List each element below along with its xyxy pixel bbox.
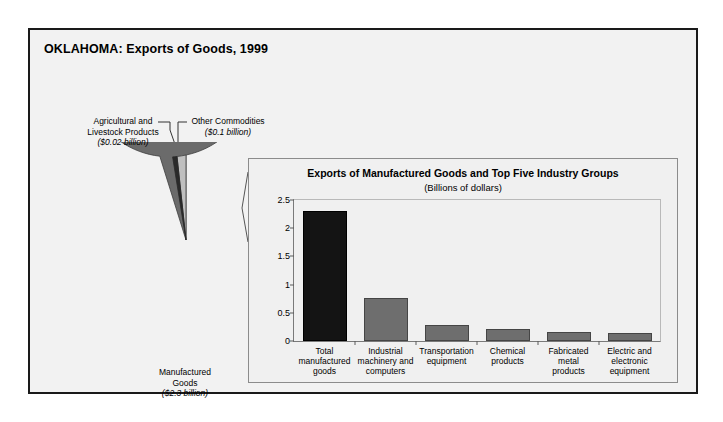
bar-series: TotalmanufacturedgoodsIndustrialmachiner… [294,200,660,341]
pie-label-manu-value: ($2.3 billion) [162,388,208,398]
bar-4 [486,329,530,341]
pie-label-agri-line2: Livestock Products [87,127,158,137]
bar-group: Electric andelectronicequipment [599,200,660,341]
x-axis-tick-mark [538,341,539,345]
bar-group: Fabricatedmetalproducts [538,200,599,341]
y-axis-tick-label: 0.5 [277,308,290,318]
pie-label-other-line1: Other Commodities [191,116,264,126]
inset-bar-panel: Exports of Manufactured Goods and Top Fi… [248,158,678,383]
pie-label-other-commodities: Other Commodities ($0.1 billion) [176,116,280,137]
pie-label-agri-line1: Agricultural and [93,116,152,126]
x-axis-tick-mark [416,341,417,345]
bar-6 [608,333,652,341]
bar-group: Totalmanufacturedgoods [294,200,355,341]
bar-3 [425,325,469,341]
bar-group: Transportationequipment [416,200,477,341]
pie-label-agricultural-livestock: Agricultural and Livestock Products ($0.… [64,116,182,148]
bar-plot-area: 00.511.522.5 TotalmanufacturedgoodsIndus… [293,199,661,342]
bar-group: Chemicalproducts [477,200,538,341]
x-axis-tick-mark [477,341,478,345]
page-title: OKLAHOMA: Exports of Goods, 1999 [44,42,268,56]
pie-label-manu-line2: Goods [172,378,197,388]
bar-group: Industrialmachinery andcomputers [355,200,416,341]
bar-5 [547,332,591,341]
x-axis-tick-mark [355,341,356,345]
x-axis-label-6: Electric andelectronicequipment [593,346,667,376]
panel-title: Exports of Manufactured Goods and Top Fi… [249,167,677,179]
pie-label-agri-value: ($0.02 billion) [97,137,148,147]
pie-label-manu-line1: Manufactured [159,367,211,377]
pie-slice-manufactured-goods [84,142,254,240]
x-axis-tick-mark [599,341,600,345]
chart-frame: OKLAHOMA: Exports of Goods, 1999 Agricul… [28,28,698,394]
pie-label-manufactured-goods: Manufactured Goods ($2.3 billion) [125,367,245,399]
bar-2 [364,298,408,341]
pie-label-other-value: ($0.1 billion) [205,127,251,137]
panel-subtitle: (Billions of dollars) [249,182,677,193]
y-axis-tick-label: 2.5 [277,195,290,205]
y-axis-tick-label: 1.5 [277,251,290,261]
bar-1 [303,211,347,341]
